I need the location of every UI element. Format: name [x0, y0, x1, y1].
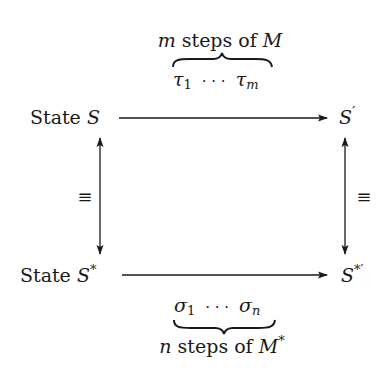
top-step-count: m [158, 29, 176, 51]
right-equivalence-symbol: ≡ [356, 186, 371, 207]
overbrace-icon [173, 53, 272, 67]
bottom-sequence: σ1· · ·σn [174, 294, 260, 318]
bottom-machine: M [258, 335, 279, 357]
top-edge-label: m steps of M [158, 29, 283, 51]
node-state-s: State S [30, 106, 100, 128]
top-sequence: τ1· · ·τm [173, 68, 258, 92]
node-s-prime: S′ [339, 103, 356, 128]
left-equivalence-symbol: ≡ [77, 186, 92, 207]
underbrace-icon [174, 320, 275, 334]
node-s-star-prime: S*′ [341, 262, 364, 286]
top-steps-text: steps of [176, 29, 263, 51]
top-machine: M [262, 29, 283, 51]
node-state-s-star: State S* [20, 262, 97, 286]
bottom-steps-text: steps of [172, 335, 259, 357]
commutative-diagram: m steps of M τ1· · ·τm State S S′ ≡ ≡ St… [0, 0, 391, 382]
bottom-edge-label: n steps of M* [159, 333, 285, 357]
bottom-step-count: n [159, 335, 171, 357]
